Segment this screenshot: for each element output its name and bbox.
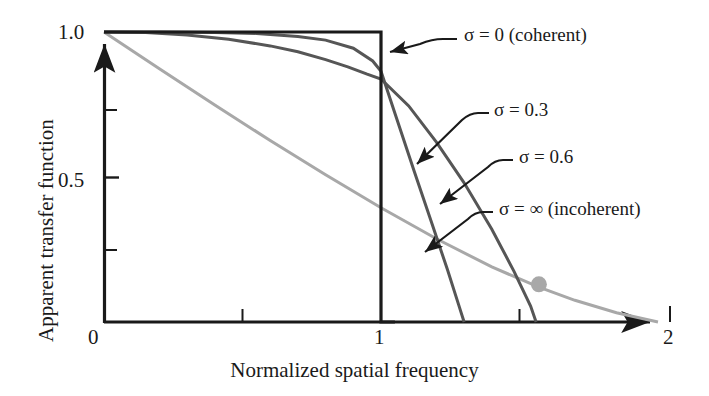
leader-sigma-06 [440,160,513,204]
curve-sigma-03 [104,32,464,322]
annotation-leaders [390,39,513,252]
y-axis-ticks [104,110,119,250]
curve-sigma-0 [104,32,395,322]
data-point-marker [531,276,547,292]
leader-sigma-03 [417,113,489,164]
plot-svg [0,0,709,396]
transfer-function-figure: Apparent transfer function Normalized sp… [0,0,709,396]
leader-sigma-0 [390,39,457,52]
